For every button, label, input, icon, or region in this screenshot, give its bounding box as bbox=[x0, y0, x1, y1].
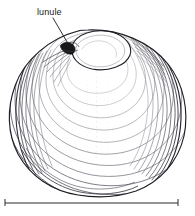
bivalve-shell-figure: lunule bbox=[0, 0, 195, 216]
shell-illustration-svg: lunule bbox=[0, 0, 195, 216]
ventral-margin-echo-2 bbox=[26, 148, 135, 189]
umbo bbox=[72, 31, 131, 70]
lunule-label: lunule bbox=[37, 7, 62, 17]
scale-bar bbox=[5, 199, 178, 206]
shell-body bbox=[0, 15, 195, 216]
